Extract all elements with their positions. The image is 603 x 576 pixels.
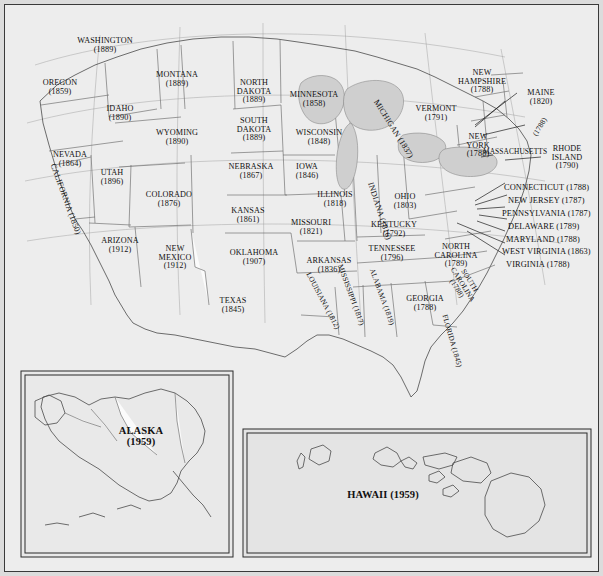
map-frame: .st{fill:#fbfbfb;stroke:#6a6a6a;stroke-w… [4, 4, 599, 572]
map-page: .st{fill:#fbfbfb;stroke:#6a6a6a;stroke-w… [0, 0, 603, 576]
us-map-graphic: .st{fill:#fbfbfb;stroke:#6a6a6a;stroke-w… [5, 5, 598, 571]
hawaii-inset-geometry [243, 429, 591, 557]
alaska-inset-geometry [21, 371, 233, 557]
